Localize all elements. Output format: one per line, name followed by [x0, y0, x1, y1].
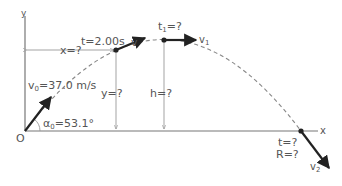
projectile-diagram: y x O x=? t=2.00s v y=? h=? t1=? v1 v0=3… — [0, 0, 342, 186]
range-label: R=? — [276, 148, 299, 161]
origin-label: O — [16, 132, 25, 145]
time-2s-label: t=2.00s — [81, 35, 125, 48]
v1-label: v1 — [199, 34, 209, 47]
y-axis-label: y — [21, 8, 27, 18]
x-unknown-label: x=? — [60, 44, 82, 57]
x-axis-label: x — [320, 125, 326, 136]
alpha0-label: α0=53.1° — [43, 117, 94, 131]
landing-point — [298, 128, 303, 133]
point-t2 — [113, 47, 118, 52]
h-unknown-label: h=? — [150, 87, 172, 100]
angle-arc — [34, 119, 40, 131]
v-label: v — [131, 36, 138, 49]
v0-label: v0=37.0 m/s — [28, 79, 97, 93]
y-unknown-label: y=? — [101, 87, 123, 100]
v2-label: v2 — [310, 161, 320, 174]
t1-label: t1=? — [158, 20, 182, 34]
apex-point — [161, 37, 166, 42]
